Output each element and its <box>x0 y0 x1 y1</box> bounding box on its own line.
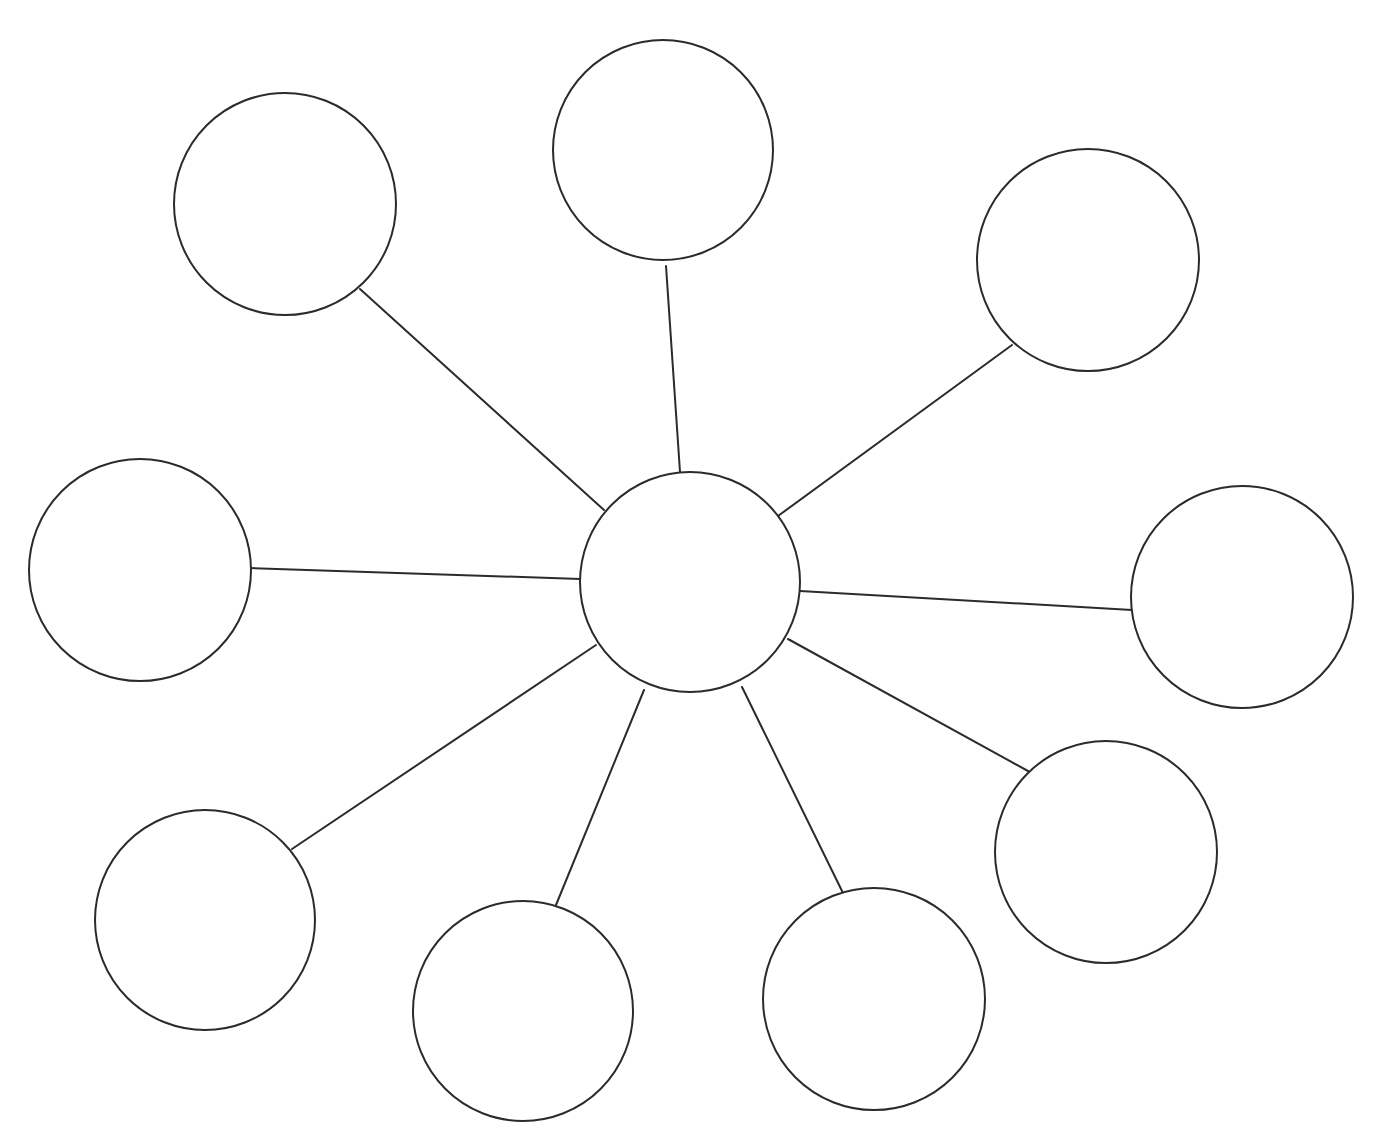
outer-circle-right <box>1131 486 1353 708</box>
outer-circle-upper-left <box>174 93 396 315</box>
spoke-to-upper-left <box>360 289 604 510</box>
spoke-to-upper-right <box>778 345 1012 516</box>
spoke-to-lower-left <box>292 645 596 849</box>
center-circle <box>580 472 800 692</box>
spoke-to-bottom-right-center <box>742 687 843 893</box>
outer-circle-bottom-right-center <box>763 888 985 1110</box>
outer-circle-left <box>29 459 251 681</box>
outer-circle-lower-left <box>95 810 315 1030</box>
outer-circle-top <box>553 40 773 260</box>
spoke-to-left <box>250 568 580 579</box>
nodes <box>29 40 1353 1121</box>
spoke-to-lower-right <box>788 639 1028 771</box>
outer-circle-lower-right <box>995 741 1217 963</box>
spider-map-diagram <box>0 0 1384 1143</box>
spoke-to-bottom-left-center <box>556 690 644 905</box>
spoke-to-top <box>666 266 680 472</box>
outer-circle-bottom-left-center <box>413 901 633 1121</box>
spoke-to-right <box>800 591 1132 610</box>
outer-circle-upper-right <box>977 149 1199 371</box>
